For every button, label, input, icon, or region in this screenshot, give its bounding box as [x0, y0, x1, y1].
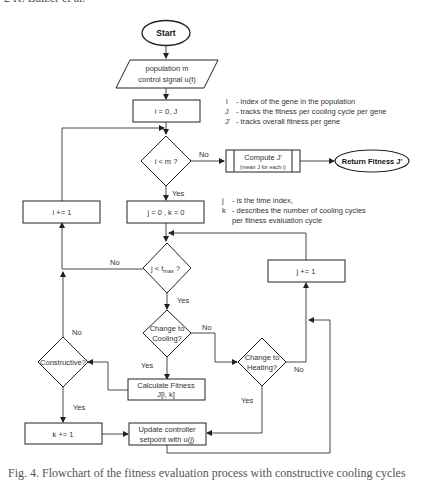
decision-i-label: i < m ?	[155, 157, 178, 166]
legend-desc: - tracks overall fitness per gene	[236, 117, 340, 126]
increment-k-process: k += 1	[25, 423, 102, 444]
edge-label-yes: Yes	[241, 396, 253, 405]
decision-constructive: Constructive?	[38, 337, 88, 387]
init-jk-process: j = 0 , k = 0	[127, 201, 204, 223]
compute-j-prime-process: Compute J' (mean J for each i)	[226, 150, 300, 172]
legend-top: i - index of the gene in the population …	[225, 97, 387, 126]
decision-change-to-heating: Change to Heating?	[238, 338, 286, 386]
increment-j-label: j += 1	[296, 267, 316, 276]
heating-label-2: Heating?	[247, 363, 277, 372]
edge-label-no: No	[202, 323, 212, 332]
update-controller-process: Update controller setpoint with u(j)	[129, 423, 206, 445]
init-i-label: i = 0, J	[155, 107, 178, 116]
edge-label-yes: Yes	[172, 189, 184, 198]
edge-label-no: No	[199, 150, 209, 159]
calc-label-2: J[i, k]	[157, 390, 175, 399]
start-label: Start	[156, 28, 176, 38]
update-label-2: setpoint with u(j)	[140, 435, 195, 444]
cooling-label-2: Cooling?	[152, 334, 182, 343]
legend-desc: - is the time index,	[232, 196, 293, 205]
compute-label-2: (mean J for each i)	[240, 164, 286, 170]
cooling-label-1: Change to	[150, 324, 185, 333]
edge-label-no: No	[110, 258, 120, 267]
decision-j-less-tmax: j < tmax ?	[143, 243, 191, 293]
calculate-fitness-process: Calculate Fitness J[i, k]	[128, 379, 205, 400]
legend-desc: per fitness evaluation cycle	[232, 216, 322, 225]
start-terminator: Start	[142, 21, 190, 46]
constructive-label: Constructive?	[40, 358, 86, 367]
update-label-1: Update controller	[138, 425, 196, 434]
legend-sym: J	[225, 107, 229, 116]
legend-mid: j - is the time index, k - describes the…	[221, 196, 366, 225]
init-i-process: i = 0, J	[133, 100, 200, 122]
calc-label-1: Calculate Fitness	[137, 381, 195, 390]
legend-desc: - tracks the fitness per cooling cycle p…	[236, 107, 387, 116]
decision-i-less-m: i < m ?	[141, 136, 191, 186]
edge-label-yes: Yes	[177, 296, 189, 305]
input-label-2: control signal u(t)	[138, 75, 196, 84]
legend-sym: J'	[225, 117, 231, 126]
increment-i-label: i += 1	[53, 208, 72, 217]
legend-desc: - describes the number of cooling cycles	[232, 206, 366, 215]
init-jk-label: j = 0 , k = 0	[146, 208, 184, 217]
edge-label-yes: Yes	[73, 403, 85, 412]
input-label-1: population m	[146, 64, 189, 73]
increment-j-process: j += 1	[268, 260, 345, 282]
legend-desc: - index of the gene in the population	[236, 97, 355, 106]
input-parallelogram: population m control signal u(t)	[116, 60, 218, 88]
return-label: Return Fitness J'	[342, 157, 403, 166]
increment-i-process: i += 1	[23, 201, 100, 223]
edge-label-no: No	[294, 365, 304, 374]
edge-label-no: No	[72, 328, 82, 337]
edge-label-yes: Yes	[141, 361, 153, 370]
legend-sym: i	[226, 97, 228, 106]
legend-sym: k	[222, 206, 226, 215]
heating-label-1: Change to	[245, 353, 280, 362]
compute-label-1: Compute J'	[244, 153, 282, 162]
increment-k-label: k += 1	[53, 430, 74, 439]
legend-sym: j	[221, 196, 224, 205]
decision-change-to-cooling: Change to Cooling?	[143, 310, 191, 357]
return-terminator: Return Fitness J'	[335, 150, 409, 172]
